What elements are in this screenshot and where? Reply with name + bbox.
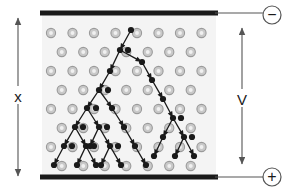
atom-core [167, 50, 171, 54]
diagram-canvas: −+xV [0, 0, 292, 193]
cathode-electrode-top [40, 11, 218, 16]
electron [181, 134, 187, 140]
atom-core [81, 164, 85, 168]
atom-core [167, 164, 171, 168]
atom-core [178, 31, 182, 35]
gas-atom [197, 104, 206, 113]
electron [93, 105, 99, 111]
atom-core [71, 31, 75, 35]
positive-terminal[interactable]: + [263, 168, 281, 186]
electron [128, 27, 134, 33]
gas-atom [57, 47, 66, 56]
gas-atom [175, 104, 184, 113]
electron [87, 143, 93, 149]
electron [96, 87, 102, 93]
electron [151, 153, 157, 159]
gas-atom [100, 47, 109, 56]
atom-core [81, 50, 85, 54]
electron [172, 153, 178, 159]
atom-core [157, 69, 161, 73]
atom-core [124, 164, 128, 168]
gas-atom [154, 28, 163, 37]
electron [96, 124, 102, 130]
electron [139, 59, 145, 65]
gas-atom [165, 161, 174, 170]
gas-atom [111, 28, 120, 37]
electron [105, 87, 111, 93]
electron [178, 115, 184, 121]
electron [117, 47, 123, 53]
electron [98, 162, 104, 168]
gas-atom [79, 85, 88, 94]
anode-electrode-bottom [40, 175, 218, 180]
atom-core [189, 50, 193, 54]
atom-core [124, 88, 128, 92]
atom-core [92, 69, 96, 73]
atom-core [200, 31, 204, 35]
electron [84, 105, 90, 111]
electron [189, 134, 195, 140]
gas-atom [46, 142, 55, 151]
atom-core [60, 126, 64, 130]
x-dimension-label: x [14, 88, 22, 105]
atom-core [114, 31, 118, 35]
gas-atom [175, 66, 184, 75]
gas-atom [165, 47, 174, 56]
atom-core [60, 164, 64, 168]
atom-core [103, 50, 107, 54]
gas-atom [57, 85, 66, 94]
gas-atom [197, 66, 206, 75]
gas-atom [68, 66, 77, 75]
gas-atom [186, 47, 195, 56]
gas-region [42, 15, 216, 177]
gas-atom [132, 66, 141, 75]
atom-core [60, 50, 64, 54]
atom-core [49, 107, 53, 111]
atom-core [135, 31, 139, 35]
gas-atom [68, 104, 77, 113]
atom-core [146, 88, 150, 92]
electron [143, 162, 149, 168]
atom-core [189, 164, 193, 168]
gas-atom [132, 104, 141, 113]
gas-atom [46, 104, 55, 113]
gas-atom [89, 66, 98, 75]
electron [149, 77, 155, 83]
gas-atom [57, 161, 66, 170]
gas-atom [68, 28, 77, 37]
atom-core [146, 50, 150, 54]
atom-core [81, 88, 85, 92]
positive-terminal-sign: + [267, 168, 276, 185]
atom-core [114, 69, 118, 73]
gas-atom [122, 85, 131, 94]
gas-atom [197, 142, 206, 151]
atom-core [92, 31, 96, 35]
electron [51, 162, 57, 168]
electron [61, 143, 67, 149]
atom-core [200, 145, 204, 149]
gas-atom [186, 161, 195, 170]
gas-atom [89, 28, 98, 37]
atom-core [71, 107, 75, 111]
atom-core [200, 69, 204, 73]
atom-core [71, 69, 75, 73]
gas-atom [197, 28, 206, 37]
atom-core [49, 69, 53, 73]
electron [74, 162, 80, 168]
gas-atom [186, 85, 195, 94]
negative-terminal[interactable]: − [263, 6, 281, 24]
gas-atom [154, 104, 163, 113]
atom-core [135, 69, 139, 73]
atom-core [157, 107, 161, 111]
atom-core [167, 88, 171, 92]
gas-atom [165, 85, 174, 94]
electron [115, 143, 121, 149]
atom-core [146, 126, 150, 130]
atom-core [49, 31, 53, 35]
electron [160, 134, 166, 140]
electron [121, 124, 127, 130]
gas-atom [154, 66, 163, 75]
atom-core [189, 88, 193, 92]
gas-atom [186, 123, 195, 132]
electron [104, 124, 110, 130]
